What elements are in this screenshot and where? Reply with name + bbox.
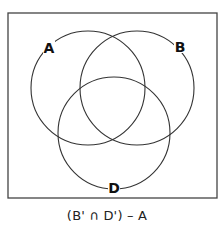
set-expression-caption: (B' ∩ D') – A xyxy=(0,208,214,223)
set-a-label: A xyxy=(44,40,55,56)
set-d-circle xyxy=(58,77,170,189)
venn-diagram: A B D xyxy=(0,0,219,225)
set-b-label: B xyxy=(175,39,186,55)
set-d-label: D xyxy=(108,180,120,196)
